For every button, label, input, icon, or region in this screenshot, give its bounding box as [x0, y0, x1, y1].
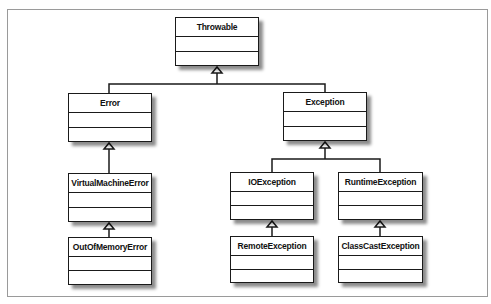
class-virtual-machine-error: VirtualMachineError	[68, 173, 152, 222]
operations-compartment	[284, 127, 366, 141]
generalization-arrow-icon	[375, 221, 385, 227]
attributes-compartment	[176, 37, 258, 52]
class-name: RemoteException	[231, 237, 313, 256]
operations-compartment	[231, 270, 313, 283]
class-io-exception: IOException	[230, 172, 314, 220]
class-throwable: Throwable	[175, 17, 259, 66]
generalization-arrow-icon	[320, 142, 330, 148]
class-exception: Exception	[283, 92, 367, 141]
class-name: ClassCastException	[339, 237, 422, 256]
class-name: OutOfMemoryError	[69, 238, 151, 257]
attributes-compartment	[69, 113, 151, 128]
generalization-arrow-icon	[104, 223, 114, 229]
class-name: VirtualMachineError	[69, 174, 151, 193]
attributes-compartment	[284, 112, 366, 127]
operations-compartment	[69, 128, 151, 142]
operations-compartment	[339, 206, 422, 219]
attributes-compartment	[339, 192, 422, 206]
generalization-arrow-icon	[267, 221, 277, 227]
class-name: Exception	[284, 93, 366, 112]
attributes-compartment	[69, 193, 151, 208]
operations-compartment	[231, 206, 313, 219]
class-runtime-exception: RuntimeException	[338, 172, 423, 220]
generalization-arrow-icon	[212, 67, 222, 73]
class-name: RuntimeException	[339, 173, 422, 192]
class-out-of-memory-error: OutOfMemoryError	[68, 237, 152, 285]
operations-compartment	[69, 271, 151, 284]
attributes-compartment	[69, 257, 151, 271]
operations-compartment	[339, 270, 422, 283]
operations-compartment	[176, 52, 258, 66]
attributes-compartment	[231, 192, 313, 206]
class-class-cast-exception: ClassCastException	[338, 236, 423, 283]
class-remote-exception: RemoteException	[230, 236, 314, 283]
class-error: Error	[68, 93, 152, 142]
class-name: Throwable	[176, 18, 258, 37]
attributes-compartment	[231, 256, 313, 270]
class-name: IOException	[231, 173, 313, 192]
generalization-arrow-icon	[104, 143, 114, 149]
class-name: Error	[69, 94, 151, 113]
operations-compartment	[69, 208, 151, 222]
attributes-compartment	[339, 256, 422, 270]
